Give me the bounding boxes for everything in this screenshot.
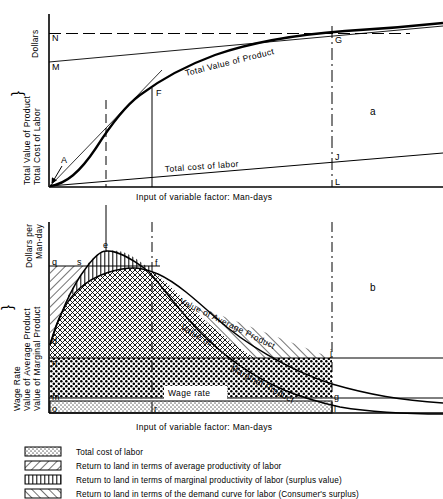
panel-b-label-n: n <box>52 358 57 368</box>
panel-b-x-axis-label: Input of variable factor: Man-days <box>136 422 272 432</box>
panel-b-wage-rate-label: Wage rate <box>168 388 211 398</box>
panel-b-label-q: q <box>52 257 57 267</box>
panel-a-label-A: A <box>61 155 67 165</box>
panel-b: q s e f d n m o r j g l Wage rate Value … <box>0 205 443 432</box>
panel-b-y-unit-label-line1: Dollars per <box>24 224 34 268</box>
panel-a-label-J: J <box>335 152 340 162</box>
panel-a-label-N: N <box>52 33 59 43</box>
legend: Total cost of labor Return to land in te… <box>25 447 359 499</box>
panel-b-label-l: l <box>334 404 336 414</box>
panel-b-label-r: r <box>154 404 157 414</box>
panel-b-id: b <box>370 282 376 293</box>
panel-b-y-group-label-line3: Value of Marginal Product <box>32 306 42 411</box>
panel-a-label-L: L <box>335 177 340 187</box>
panel-b-label-o: o <box>52 404 57 414</box>
legend-label-total-cost: Total cost of labor <box>76 448 143 457</box>
panel-b-label-s: s <box>77 257 82 267</box>
panel-b-label-j: j <box>329 348 332 358</box>
panel-b-y-brace: } <box>0 305 15 310</box>
panel-a: N M G F A J L Total Value of Product Tot… <box>8 14 443 202</box>
legend-swatch-dots <box>25 447 61 456</box>
legend-swatch-diag-back <box>25 489 61 498</box>
panel-b-y-group-label-line1: Wage Rate <box>12 366 22 411</box>
panel-a-arrow-A <box>52 166 62 183</box>
panel-b-label-g: g <box>334 392 339 402</box>
legend-label-demand-curve: Return to land in terms of the demand cu… <box>76 490 359 499</box>
panel-a-total-value-curve <box>50 23 443 186</box>
panel-b-label-m: m <box>52 392 60 402</box>
economics-figure: N M G F A J L Total Value of Product Tot… <box>0 0 443 499</box>
legend-label-average-productivity: Return to land in terms of average produ… <box>76 462 282 471</box>
panel-a-x-axis-label: Input of variable factor: Man-days <box>136 192 272 202</box>
panel-a-y-brace: } <box>8 91 25 96</box>
figure-canvas: N M G F A J L Total Value of Product Tot… <box>0 0 443 499</box>
panel-b-label-d: d <box>52 336 57 346</box>
panel-a-label-M: M <box>52 62 60 72</box>
panel-a-y-unit-label: Dollars <box>30 29 40 58</box>
panel-a-id: a <box>370 106 376 117</box>
panel-a-y-group-label-line1: Total Value of Product <box>22 96 32 185</box>
legend-label-marginal-productivity: Return to land in terms of marginal prod… <box>76 476 342 485</box>
panel-b-y-unit-label-line2: Man-day <box>34 223 44 259</box>
panel-b-label-e: e <box>103 240 108 250</box>
panel-a-label-F: F <box>156 88 162 98</box>
legend-swatch-vertical <box>25 475 61 484</box>
panel-b-wage-rate-annotation: Wage rate <box>164 386 227 399</box>
panel-b-y-group-label-line2: Value of Average Product <box>22 308 32 411</box>
legend-swatch-diag-forward <box>25 461 61 470</box>
panel-a-total-cost-label: Total cost of labor <box>164 159 239 174</box>
panel-a-total-cost-line <box>50 153 443 186</box>
panel-a-label-G: G <box>335 35 342 45</box>
panel-a-y-group-label-line2: Total Cost of Labor <box>32 108 42 185</box>
